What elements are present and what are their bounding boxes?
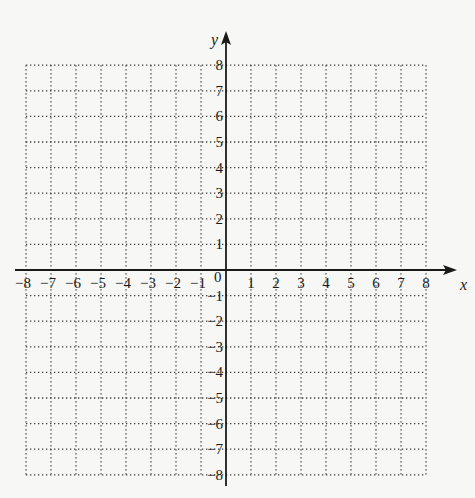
y-tick-label: −6 xyxy=(207,416,223,432)
x-axis-label: x xyxy=(459,276,467,293)
x-tick-label: −5 xyxy=(90,275,106,291)
x-tick-label: 3 xyxy=(297,275,305,291)
y-tick-label: 5 xyxy=(216,134,224,150)
y-tick-label: 4 xyxy=(216,160,224,176)
x-tick-label: −3 xyxy=(140,275,156,291)
y-tick-label: 1 xyxy=(216,236,224,252)
x-tick-label: −7 xyxy=(40,275,56,291)
x-tick-label: 7 xyxy=(397,275,405,291)
y-tick-label: −3 xyxy=(207,339,223,355)
x-tick-label: −2 xyxy=(165,275,181,291)
origin-label: 0 xyxy=(214,269,222,285)
x-tick-label: 8 xyxy=(422,275,430,291)
x-tick-label: 5 xyxy=(347,275,355,291)
y-tick-label: −2 xyxy=(207,313,223,329)
y-tick-label: −1 xyxy=(207,288,223,304)
x-tick-label: 4 xyxy=(322,275,330,291)
x-tick-label: −1 xyxy=(190,275,206,291)
x-tick-label: 6 xyxy=(372,275,380,291)
y-tick-label: −8 xyxy=(207,467,223,483)
y-axis-label: y xyxy=(209,31,219,49)
y-tick-label: 8 xyxy=(216,57,224,73)
y-tick-label: 2 xyxy=(216,211,224,227)
y-tick-label: −5 xyxy=(207,390,223,406)
x-tick-label: −8 xyxy=(15,275,31,291)
x-tick-label: 2 xyxy=(272,275,280,291)
x-tick-label: −4 xyxy=(115,275,131,291)
axes xyxy=(15,31,457,486)
y-tick-label: −7 xyxy=(207,441,223,457)
y-tick-label: 6 xyxy=(216,108,224,124)
y-tick-label: 7 xyxy=(216,83,224,99)
x-tick-label: −6 xyxy=(65,275,81,291)
x-tick-label: 1 xyxy=(247,275,255,291)
coordinate-plane: −8−7−6−5−4−3−2−112345678 87654321−1−2−3−… xyxy=(0,0,475,498)
y-tick-label: 3 xyxy=(216,185,224,201)
y-tick-label: −4 xyxy=(207,364,223,380)
